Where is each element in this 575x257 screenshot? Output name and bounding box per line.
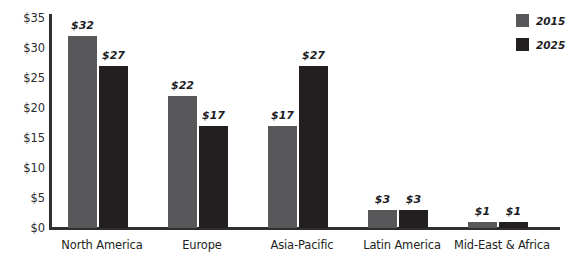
plot-area: $32$27$22$17$17$27$3$3$1$1 [0, 0, 575, 257]
bar-group-bars: $17$27 [252, 14, 352, 228]
legend-label: 2025 [536, 39, 565, 51]
legend-color-swatch [516, 14, 529, 27]
legend-color-swatch [516, 38, 529, 51]
bar-value-label: $27 [91, 49, 136, 62]
bar-value-label: $17 [191, 109, 236, 122]
bar-group-bars: $22$17 [152, 14, 252, 228]
bar-2015[interactable] [68, 36, 97, 228]
bar-2025[interactable] [99, 66, 128, 228]
bar-chart: $0$5$10$15$20$25$30$35 $32$27$22$17$17$2… [0, 0, 575, 257]
bar-2015[interactable] [268, 126, 297, 228]
bar-value-label: $22 [160, 79, 205, 92]
chart-legend: 20152025 [516, 14, 575, 62]
bar-2025[interactable] [499, 222, 528, 228]
bar-value-label: $1 [491, 205, 536, 218]
x-axis-category-label: Mid-East & Africa [440, 238, 564, 252]
bar-group: $3$3 [352, 14, 452, 228]
bar-2025[interactable] [299, 66, 328, 228]
bar-value-label: $3 [391, 193, 436, 206]
bar-2015[interactable] [468, 222, 497, 228]
bar-2025[interactable] [199, 126, 228, 228]
legend-item-2015[interactable]: 2015 [516, 14, 575, 27]
bar-group: $32$27 [52, 14, 152, 228]
legend-item-2025[interactable]: 2025 [516, 38, 575, 51]
bar-group: $17$27 [252, 14, 352, 228]
bar-group-bars: $32$27 [52, 14, 152, 228]
bar-group-bars: $3$3 [352, 14, 452, 228]
bar-group: $22$17 [152, 14, 252, 228]
bar-2025[interactable] [399, 210, 428, 228]
bar-2015[interactable] [368, 210, 397, 228]
bar-value-label: $32 [60, 19, 105, 32]
legend-label: 2015 [536, 15, 565, 27]
bar-value-label: $27 [291, 49, 336, 62]
